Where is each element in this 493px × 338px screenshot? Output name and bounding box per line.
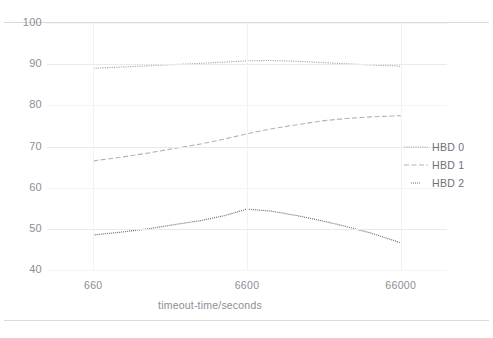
y-tick-label-80: 80 <box>8 99 42 110</box>
chart-figure: 405060708090100 660660066000 timeout-tim… <box>0 0 493 338</box>
chart-legend: HBD 0HBD 1HBD 2 <box>404 138 490 192</box>
y-tick-label-50: 50 <box>8 223 42 234</box>
x-tick-label-660: 660 <box>84 279 102 291</box>
gridline-y-40 <box>47 270 447 271</box>
y-tick-label-100: 100 <box>8 17 42 28</box>
x-tick-label-66000: 66000 <box>385 279 416 291</box>
line-dashed-swatch <box>404 160 428 170</box>
x-axis-label: timeout-time/seconds <box>0 299 420 311</box>
y-tick-label-70: 70 <box>8 141 42 152</box>
legend-item-hbd-1[interactable]: HBD 1 <box>404 156 490 174</box>
legend-label: HBD 0 <box>432 141 464 153</box>
y-tick-label-90: 90 <box>8 58 42 69</box>
y-tick-label-60: 60 <box>8 182 42 193</box>
y-axis-tick-labels: 405060708090100 <box>6 23 42 270</box>
x-tick-label-6600: 6600 <box>235 279 260 291</box>
x-axis-tick-labels: 660660066000 <box>47 279 447 295</box>
gridline-x-660 <box>93 23 94 270</box>
legend-label: HBD 2 <box>432 177 464 189</box>
line-dotted-sparse-swatch <box>404 178 428 188</box>
plot-area <box>47 23 447 270</box>
gridline-x-66000 <box>401 23 402 270</box>
gridline-x-6600 <box>247 23 248 270</box>
legend-item-hbd-2[interactable]: HBD 2 <box>404 174 490 192</box>
y-tick-label-40: 40 <box>8 264 42 275</box>
figure-bottom-rule <box>4 320 489 321</box>
legend-label: HBD 1 <box>432 159 464 171</box>
legend-item-hbd-0[interactable]: HBD 0 <box>404 138 490 156</box>
line-dotted-dense-swatch <box>404 142 428 152</box>
